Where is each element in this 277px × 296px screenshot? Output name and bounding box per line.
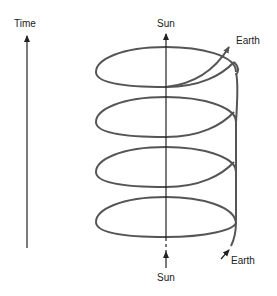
earth-top-label: Earth [236, 36, 260, 46]
time-axis-label: Time [14, 19, 36, 29]
earth-bottom-arrow [221, 250, 229, 259]
earth-bottom-label: Earth [231, 256, 255, 266]
helix-spiral [96, 47, 238, 246]
sun-top-label: Sun [157, 19, 175, 29]
sun-bottom-label: Sun [157, 273, 175, 283]
